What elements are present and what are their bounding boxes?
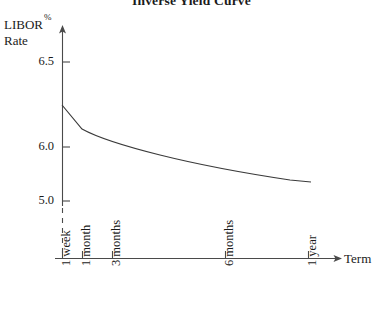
plot-area: [0, 0, 383, 323]
chart-figure: Inverse Yield Curve LIBOR Rate % 6.5 6.0…: [0, 0, 383, 323]
yield-curve-line: [62, 105, 311, 182]
